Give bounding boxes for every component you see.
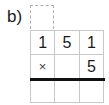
multiplication-grid: 1 5 1 × 5	[30, 30, 104, 103]
result-row	[31, 79, 104, 103]
answer-cell[interactable]	[79, 79, 103, 103]
exercise-label: b)	[7, 8, 22, 26]
cell: 5	[55, 31, 79, 55]
cell: 1	[31, 31, 55, 55]
multiplier-row: × 5	[31, 55, 104, 79]
answer-cell[interactable]	[55, 79, 79, 103]
cell: 1	[79, 31, 103, 55]
result-rule	[30, 78, 105, 81]
cell	[55, 55, 79, 79]
times-sign: ×	[31, 55, 55, 79]
cell: 5	[79, 55, 103, 79]
carry-box[interactable]	[30, 5, 54, 29]
answer-cell[interactable]	[31, 79, 55, 103]
multiplicand-row: 1 5 1	[31, 31, 104, 55]
